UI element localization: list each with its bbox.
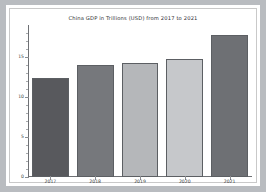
bar-2018 [77, 65, 114, 177]
y-minor-tick [26, 49, 28, 50]
y-minor-tick [26, 89, 28, 90]
bar-2020 [166, 59, 203, 177]
y-minor-tick [26, 169, 28, 170]
y-minor-tick [26, 73, 28, 74]
y-minor-tick [26, 33, 28, 34]
x-tick-label-2019: 2019 [134, 180, 146, 185]
bar-2017 [32, 78, 69, 177]
bar-2021 [211, 35, 248, 177]
y-tick-label-15: 15 [18, 55, 24, 60]
y-minor-tick [26, 105, 28, 106]
y-tick-0 [25, 177, 29, 178]
y-minor-tick [26, 129, 28, 130]
y-minor-tick [26, 113, 28, 114]
y-minor-tick [26, 121, 28, 122]
plot-area: 051015 20172018201920202021 [28, 25, 252, 177]
y-minor-tick [26, 41, 28, 42]
chart-title: China GDP in Trillions (USD) from 2017 t… [6, 16, 260, 21]
y-minor-tick [26, 65, 28, 66]
y-tick-5 [25, 137, 29, 138]
y-minor-tick [26, 153, 28, 154]
bar-2019 [122, 63, 159, 177]
x-tick-label-2017: 2017 [45, 180, 57, 185]
y-minor-tick [26, 145, 28, 146]
y-axis-line [28, 25, 29, 177]
x-tick-label-2018: 2018 [89, 180, 101, 185]
x-tick-label-2021: 2021 [224, 180, 236, 185]
figure-canvas: China GDP in Trillions (USD) from 2017 t… [6, 5, 260, 186]
x-tick-label-2020: 2020 [179, 180, 191, 185]
y-tick-15 [25, 57, 29, 58]
y-tick-label-10: 10 [18, 95, 24, 100]
y-minor-tick [26, 81, 28, 82]
y-tick-label-0: 0 [21, 175, 24, 180]
y-tick-label-5: 5 [21, 135, 24, 140]
y-tick-10 [25, 97, 29, 98]
y-minor-tick [26, 161, 28, 162]
